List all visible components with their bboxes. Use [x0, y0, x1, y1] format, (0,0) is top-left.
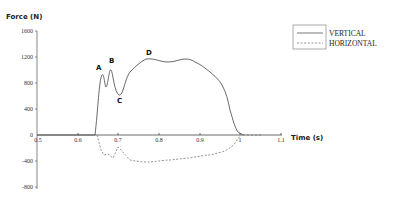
x-axis-title: Time (s) — [291, 134, 323, 142]
y-tick-800: 800 — [24, 80, 33, 86]
y-tick-neg800: -800 — [22, 184, 33, 190]
legend-box — [293, 25, 326, 49]
x-tick-0.7: 0.7 — [114, 137, 122, 143]
y-axis — [35, 31, 37, 189]
y-axis-title: Force (N) — [6, 13, 42, 21]
x-tick-0.6: 0.6 — [74, 137, 82, 143]
point-label-d: D — [146, 49, 152, 57]
legend-label-vertical: VERTICAL — [329, 29, 366, 38]
x-tick-0.5: 0.5 — [34, 137, 42, 143]
point-label-c: C — [117, 97, 122, 105]
point-label-a: A — [96, 64, 102, 72]
y-tick-400: 400 — [24, 106, 33, 112]
y-tick-labels: 1600 1200 800 400 0 -400 -800 — [21, 28, 33, 190]
y-tick-0: 0 — [30, 132, 33, 138]
legend-label-horizontal: HORIZONTAL — [329, 39, 377, 48]
force-time-chart: Force (N) Time (s) 1600 1200 800 400 0 -… — [0, 0, 396, 203]
y-tick-1600: 1600 — [21, 28, 33, 34]
x-tick-0.8: 0.8 — [155, 137, 163, 143]
y-tick-1200: 1200 — [21, 54, 33, 60]
legend: VERTICAL HORIZONTAL — [293, 25, 377, 49]
point-label-b: B — [109, 57, 114, 65]
x-tick-labels: 0.5 0.6 0.7 0.8 0.9 1 1.1 — [34, 137, 285, 143]
x-tick-1.1: 1.1 — [277, 137, 285, 143]
vertical-force-line — [37, 59, 243, 135]
y-tick-neg400: -400 — [22, 158, 33, 164]
x-tick-0.9: 0.9 — [196, 137, 204, 143]
